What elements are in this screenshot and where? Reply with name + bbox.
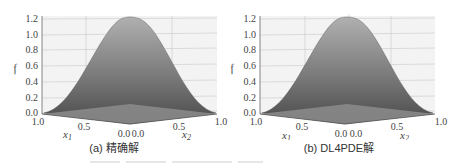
- svg-text:0.5: 0.5: [78, 121, 91, 132]
- svg-text:0.4: 0.4: [26, 76, 39, 87]
- surface-plot-b: 0.0 0.2 0.4 0.6 0.8 1.0 1.2 f 1.0 0.5 0.…: [225, 0, 455, 140]
- svg-text:0.4: 0.4: [244, 76, 257, 87]
- svg-text:0.2: 0.2: [26, 92, 39, 103]
- svg-text:1.0: 1.0: [250, 116, 263, 127]
- svg-text:0.6: 0.6: [26, 60, 39, 71]
- svg-text:1.0: 1.0: [32, 116, 45, 127]
- svg-text:1.0: 1.0: [435, 116, 448, 127]
- z-axis-label: f: [12, 61, 19, 74]
- figure-caption-faint: [90, 152, 380, 160]
- svg-text:0.8: 0.8: [26, 44, 39, 55]
- svg-text:0.0: 0.0: [118, 128, 131, 139]
- svg-text:1.2: 1.2: [26, 13, 39, 24]
- z-tick-labels: 0.0 0.2 0.4 0.6 0.8 1.0 1.2: [26, 13, 39, 118]
- svg-text:0.0: 0.0: [350, 128, 363, 139]
- svg-text:0.8: 0.8: [244, 44, 257, 55]
- z-axis-label: f: [229, 61, 236, 74]
- svg-text:1.2: 1.2: [244, 13, 257, 24]
- svg-text:0.0: 0.0: [335, 128, 348, 139]
- z-tick-labels: 0.0 0.2 0.4 0.6 0.8 1.0 1.2: [244, 13, 257, 118]
- svg-text:0.0: 0.0: [132, 128, 145, 139]
- svg-text:0.5: 0.5: [296, 121, 309, 132]
- svg-text:0.6: 0.6: [244, 60, 257, 71]
- panel-exact-solution: 0.0 0.2 0.4 0.6 0.8 1.0 1.2 f 1.0 0.5 0.…: [0, 0, 228, 163]
- panel-dl4pde-solution: 0.0 0.2 0.4 0.6 0.8 1.0 1.2 f 1.0 0.5 0.…: [225, 0, 453, 163]
- svg-text:1.0: 1.0: [26, 29, 39, 40]
- surface-plot-a: 0.0 0.2 0.4 0.6 0.8 1.0 1.2 f 1.0 0.5 0.…: [0, 0, 228, 140]
- svg-text:1.0: 1.0: [244, 29, 257, 40]
- svg-text:0.2: 0.2: [244, 92, 257, 103]
